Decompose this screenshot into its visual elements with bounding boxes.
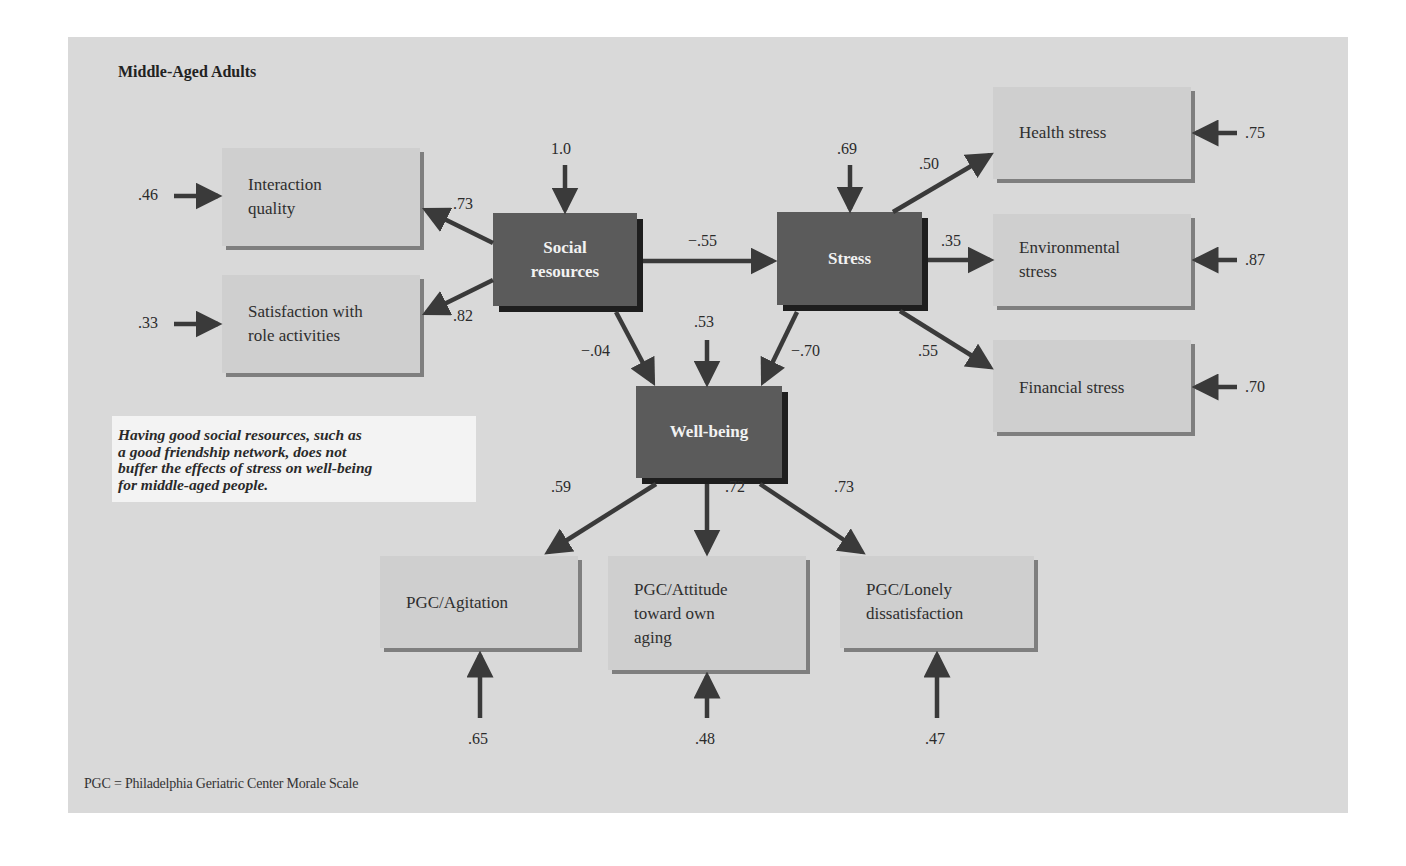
- loading-satisfaction-roles: .82: [453, 307, 473, 325]
- error-environmental-stress: .87: [1245, 251, 1265, 269]
- footnote: PGC = Philadelphia Geriatric Center Mora…: [84, 776, 358, 792]
- error-interaction-quality: .46: [138, 186, 158, 204]
- loading-interaction-quality: .73: [453, 195, 473, 213]
- error-pgc-attitude: .48: [695, 730, 715, 748]
- error-pgc-lonely: .47: [925, 730, 945, 748]
- disturbance-stress: .69: [837, 140, 857, 158]
- loading-health-stress: .50: [919, 155, 939, 173]
- disturbance-social-resources: 1.0: [551, 140, 571, 158]
- error-financial-stress: .70: [1245, 378, 1265, 396]
- disturbance-well-being: .53: [694, 313, 714, 331]
- path-arrow-icon: [616, 312, 653, 382]
- loading-pgc-agitation: .59: [551, 478, 571, 496]
- loading-pgc-lonely: .73: [834, 478, 854, 496]
- error-satisfaction-roles: .33: [138, 314, 158, 332]
- error-pgc-agitation: .65: [468, 730, 488, 748]
- loading-arrow-icon: [893, 155, 990, 212]
- loading-pgc-attitude: .72: [725, 478, 745, 496]
- path-social-wellbeing: −.04: [581, 342, 610, 360]
- path-social-stress: −.55: [688, 232, 717, 250]
- loading-financial-stress: .55: [918, 342, 938, 360]
- loading-environmental-stress: .35: [941, 232, 961, 250]
- error-health-stress: .75: [1245, 124, 1265, 142]
- path-stress-wellbeing: −.70: [791, 342, 820, 360]
- loading-arrow-icon: [426, 210, 493, 243]
- loading-arrow-icon: [900, 311, 990, 367]
